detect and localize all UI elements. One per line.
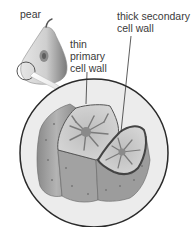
label-pear-text: pear <box>20 8 41 20</box>
label-pear: pear <box>20 8 41 20</box>
label-thick-secondary-cell-wall: thick secondary cell wall <box>117 10 190 34</box>
label-line: cell wall <box>117 22 190 34</box>
label-line: cell wall <box>70 62 107 74</box>
diagram-stage: pear thin primary cell wall thick second… <box>0 0 196 227</box>
label-line: thin <box>70 38 107 50</box>
diagram-illustration <box>0 0 196 227</box>
pear-illustration <box>17 19 67 84</box>
pear-stem <box>46 19 52 27</box>
label-line: primary <box>70 50 107 62</box>
label-thin-primary-cell-wall: thin primary cell wall <box>70 38 107 74</box>
label-line: thick secondary <box>117 10 190 22</box>
